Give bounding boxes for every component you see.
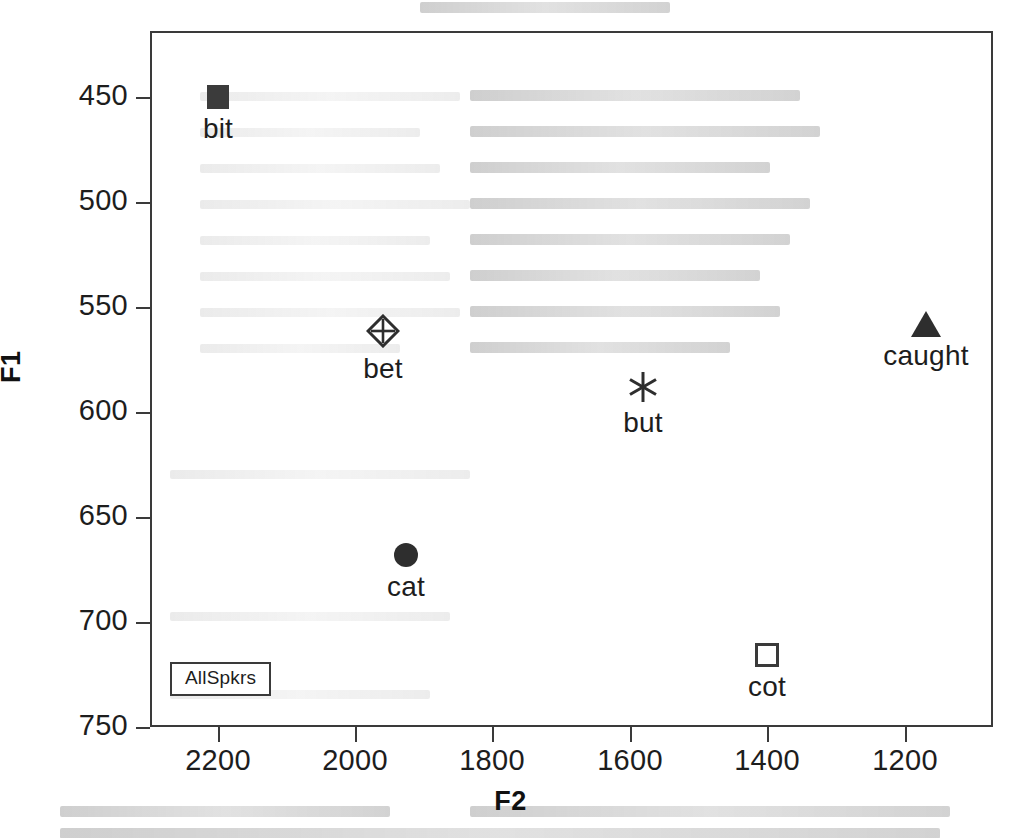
x-tick [905,727,907,742]
legend-label: AllSpkrs [185,667,256,688]
y-tick [136,517,150,519]
y-tick-label: 450 [42,79,128,112]
y-tick-label: 600 [42,394,128,427]
asterisk-marker [626,370,660,404]
y-tick-label: 650 [42,499,128,532]
point-label: cot [748,671,786,703]
x-tick [767,727,769,742]
y-tick [136,97,150,99]
open-square-marker [755,643,779,667]
point-label: bit [203,113,233,145]
x-tick-label: 1600 [570,744,690,777]
filled-triangle-marker [911,311,941,337]
y-tick [136,727,150,729]
x-tick-label: 1200 [845,744,965,777]
x-tick-label: 2200 [158,744,278,777]
y-tick-label: 500 [42,184,128,217]
x-tick [630,727,632,742]
x-tick [492,727,494,742]
x-tick-label: 1800 [432,744,552,777]
y-tick-label: 700 [42,604,128,637]
x-tick-label: 1400 [707,744,827,777]
point-label: cat [387,571,425,603]
y-tick [136,622,150,624]
x-tick [355,727,357,742]
crossed-diamond-marker [366,314,400,348]
y-tick-label: 750 [42,709,128,742]
point-label: but [623,407,663,439]
x-tick-label: 2000 [295,744,415,777]
x-tick [218,727,220,742]
point-label: bet [363,353,403,385]
legend-box: AllSpkrs [170,662,271,696]
y-tick [136,202,150,204]
point-label: caught [883,340,968,372]
filled-circle-marker [394,543,418,567]
y-tick [136,412,150,414]
plot-area [150,31,993,727]
filled-square-marker [207,85,229,109]
y-axis-title: F1 [0,350,27,383]
y-tick-label: 550 [42,289,128,322]
y-tick [136,307,150,309]
x-axis-title: F2 [0,786,1021,817]
formant-scatter-chart: 450 500 550 600 650 700 750 2200 2000 18… [0,0,1021,838]
